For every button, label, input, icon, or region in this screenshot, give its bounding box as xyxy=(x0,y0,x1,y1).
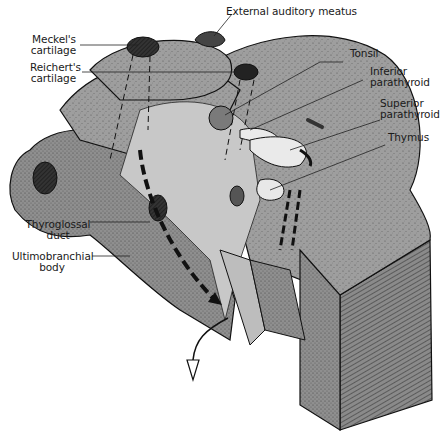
label-external-auditory-meatus: External auditory meatus xyxy=(226,6,357,17)
label-ultimobranchial-body: Ultimobranchial body xyxy=(12,251,92,273)
anatomy-diagram: External auditory meatus Meckel's cartil… xyxy=(0,0,447,433)
mandibular-process xyxy=(90,40,232,100)
label-meckels-cartilage: Meckel's cartilage xyxy=(30,34,76,56)
label-thyroglossal-duct: Thyroglossal duct xyxy=(24,219,92,241)
label-superior-parathyroid: Superior parathyroid xyxy=(380,98,440,120)
meckels-cartilage-section xyxy=(127,37,159,57)
label-inferior-parathyroid: Inferior parathyroid xyxy=(370,66,430,88)
cartilage-section-left xyxy=(33,162,57,194)
label-thymus: Thymus xyxy=(388,132,429,143)
descent-arrow-head xyxy=(187,360,199,380)
ultimobranchial-body xyxy=(230,186,244,206)
label-tonsil: Tonsil xyxy=(350,48,378,59)
label-reicherts-cartilage: Reichert's cartilage xyxy=(30,62,76,84)
leader-eam xyxy=(214,14,232,36)
tonsil xyxy=(209,106,233,130)
